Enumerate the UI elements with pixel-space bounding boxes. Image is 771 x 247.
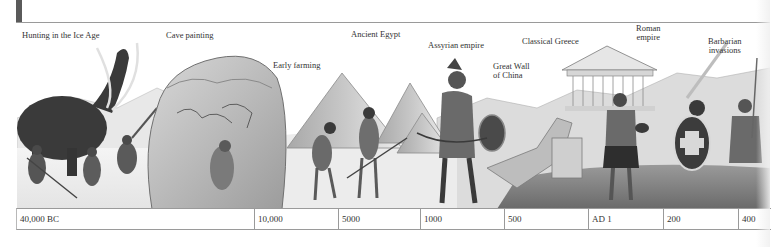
timeline-cell-ad1: AD 1: [589, 209, 664, 229]
timeline-scale: 40,000 BC 10,000 5000 1000 500 AD 1 200 …: [16, 208, 771, 230]
label-classical-greece: Classical Greece: [522, 37, 579, 46]
label-cave-painting: Cave painting: [166, 31, 213, 40]
timeline-cell-10000: 10,000: [255, 209, 339, 229]
label-roman-empire: Roman empire: [636, 24, 661, 42]
label-early-farming: Early farming: [273, 61, 320, 70]
cave-painting-rock: [148, 56, 286, 209]
timeline-cell-500: 500: [505, 209, 589, 229]
label-barbarian-line2: invasions: [708, 46, 742, 55]
label-ancient-egypt: Ancient Egypt: [351, 30, 400, 39]
label-hunting-ice-age: Hunting in the Ice Age: [22, 31, 99, 40]
label-great-wall-china: Great Wall of China: [493, 62, 530, 80]
page-spine-bar: [16, 0, 22, 22]
page-edge-shadow: [756, 0, 770, 247]
label-assyrian-empire: Assyrian empire: [428, 41, 484, 50]
timeline-cell-5000: 5000: [339, 209, 421, 229]
timeline-cell-1000: 1000: [421, 209, 505, 229]
timeline-illustration: [17, 28, 770, 209]
timeline-cell-200: 200: [664, 209, 739, 229]
label-roman-line2: empire: [636, 33, 661, 42]
label-great-wall-line2: of China: [493, 71, 530, 80]
timeline-cell-40000bc: 40,000 BC: [17, 209, 255, 229]
label-barbarian-invasions: Barbarian invasions: [708, 37, 742, 55]
